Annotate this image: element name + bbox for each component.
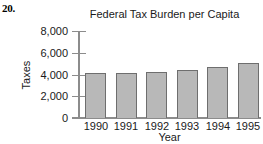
y-axis-title: Taxes	[21, 48, 32, 102]
bar	[177, 70, 198, 118]
bar	[116, 73, 137, 118]
bar	[146, 72, 167, 118]
y-axis-tick-label: 0	[22, 113, 68, 124]
y-axis-tick	[72, 75, 86, 76]
plot-area: 02,0004,0006,0008,000 199019911992199319…	[0, 0, 263, 144]
bar	[238, 63, 259, 118]
bar	[85, 73, 106, 118]
y-axis-tick	[72, 118, 86, 119]
y-axis-tick-label: 8,000	[22, 26, 68, 37]
bar	[207, 67, 228, 118]
x-axis-title: Year	[78, 131, 261, 143]
figure-bar-chart: 20. Federal Tax Burden per Capita 02,000…	[0, 0, 263, 144]
y-axis-tick	[72, 53, 86, 54]
y-axis-tick	[72, 31, 86, 32]
y-axis-tick	[72, 96, 86, 97]
